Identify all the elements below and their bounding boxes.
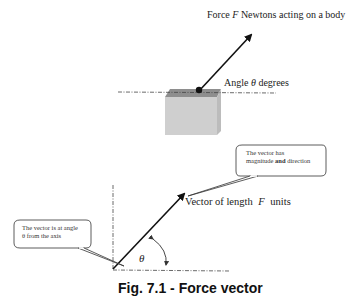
callout-right-text: The vector has magnitude and direction bbox=[246, 149, 310, 165]
vector-label-prefix: Vector of length bbox=[185, 196, 255, 207]
force-label-prefix: Force bbox=[207, 9, 232, 20]
callout-right-text-a: magnitude bbox=[246, 157, 275, 164]
callout-left-line1: The vector is at angle bbox=[22, 224, 78, 232]
angle-label-prefix: Angle bbox=[224, 77, 251, 88]
callout-right-text-b: and bbox=[275, 157, 285, 164]
application-point bbox=[196, 87, 202, 93]
callout-left-text: The vector is at angle θ from the axis bbox=[22, 224, 78, 240]
callout-right-text-c: direction bbox=[286, 157, 311, 164]
angle-arc-icon bbox=[153, 239, 166, 265]
vector-label: Vector of length F units bbox=[185, 196, 291, 207]
force-label-suffix: Newtons acting on a body bbox=[238, 9, 345, 20]
callout-right-line1: The vector has bbox=[246, 149, 310, 157]
callout-left-line2: θ from the axis bbox=[22, 232, 78, 240]
figure-caption: Fig. 7.1 - Force vector bbox=[118, 280, 263, 296]
angle-label-suffix: degrees bbox=[256, 77, 289, 88]
vector-label-suffix: units bbox=[268, 196, 291, 207]
angle-label: Angle θ degrees bbox=[224, 77, 289, 88]
body-box bbox=[165, 89, 221, 135]
theta-label: θ bbox=[139, 252, 144, 264]
vector-symbol: F bbox=[258, 196, 264, 207]
vector-arrow bbox=[113, 194, 184, 269]
horizontal-axis bbox=[113, 270, 230, 271]
callout-right-line2: magnitude and direction bbox=[246, 157, 310, 165]
force-label: Force F Newtons acting on a body bbox=[207, 9, 345, 20]
